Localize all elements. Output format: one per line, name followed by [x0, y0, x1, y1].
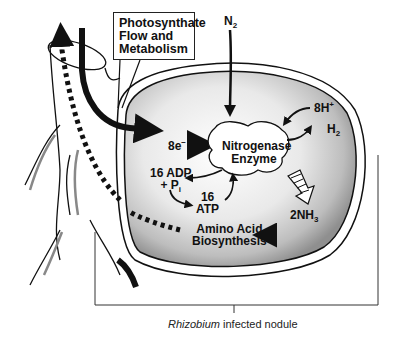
atp-label: 16 ATP [196, 191, 219, 215]
figure-caption: Rhizobium infected nodule [168, 318, 298, 330]
caption-rest: infected nodule [220, 318, 298, 330]
amino-acid-label: Amino Acid Biosynthesis [192, 223, 267, 247]
nitrogen-fixation-diagram [0, 0, 395, 343]
electrons-text: 8e [168, 139, 181, 153]
atp-line-2: ATP [196, 203, 219, 215]
ammonia-text: 2NH [290, 208, 314, 222]
amino-acid-export-arrow [61, 32, 120, 200]
h2-subscript: 2 [336, 129, 340, 138]
ammonia-label: 2NH3 [290, 209, 318, 224]
n2-text: N [224, 14, 233, 28]
h2-text: H [327, 122, 336, 136]
n2-arrow [230, 30, 231, 112]
protons-superscript: + [329, 100, 334, 109]
adp-line-2: + P [160, 178, 178, 192]
n2-label: N2 [224, 15, 237, 30]
pi-subscript: i [179, 185, 181, 194]
n2-subscript: 2 [233, 21, 237, 30]
adp-label: 16 ADP + Pi [150, 167, 192, 194]
box-line-3: Metabolism [119, 43, 189, 56]
protons-text: 8H [314, 101, 329, 115]
enzyme-line-1: Nitrogenase [222, 140, 286, 152]
electrons-superscript: − [181, 138, 186, 147]
protons-label: 8H+ [314, 101, 334, 114]
enzyme-label: Nitrogenase Enzyme [222, 140, 286, 165]
h2-label: H2 [327, 123, 340, 138]
photosynthate-box: Photosynthate Flow and Metabolism [113, 12, 195, 60]
electrons-label: 8e− [168, 139, 186, 152]
caption-italic: Rhizobium [168, 318, 220, 330]
amino-line-2: Biosynthesis [192, 235, 267, 247]
enzyme-line-2: Enzyme [222, 153, 286, 165]
ammonia-subscript: 3 [314, 215, 318, 224]
